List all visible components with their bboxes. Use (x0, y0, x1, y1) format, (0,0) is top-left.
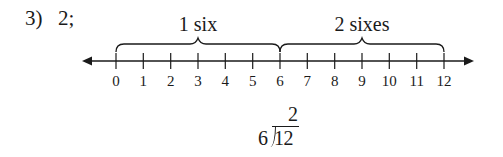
tick-label-10: 10 (382, 73, 397, 89)
quotient: 2 (288, 104, 298, 124)
tick-label-5: 5 (249, 73, 257, 89)
tick-label-0: 0 (112, 73, 120, 89)
brace-2-sixes (280, 38, 444, 52)
tick-label-11: 11 (409, 73, 423, 89)
tick-label-7: 7 (304, 73, 312, 89)
long-division: 2 6 12 (258, 104, 308, 154)
tick-label-8: 8 (331, 73, 339, 89)
tick-label-1: 1 (140, 73, 148, 89)
brace-1-six (116, 38, 280, 52)
left-arrow-icon (82, 57, 92, 66)
tick-label-9: 9 (358, 73, 366, 89)
tick-label-4: 4 (222, 73, 230, 89)
dividend: 12 (274, 126, 293, 150)
tick-label-2: 2 (167, 73, 175, 89)
right-arrow-icon (464, 57, 474, 66)
tick-label-3: 3 (194, 73, 202, 89)
tick-label-12: 12 (437, 73, 452, 89)
tick-label-6: 6 (276, 73, 284, 89)
divisor: 6 (258, 126, 268, 150)
